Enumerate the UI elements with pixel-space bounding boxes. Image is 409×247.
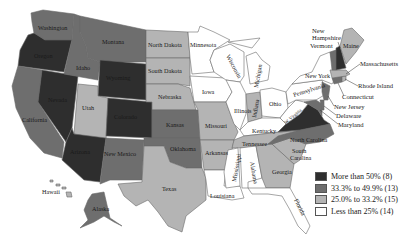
label-delaware: Delaware xyxy=(336,112,361,119)
label-tennessee: Tennessee xyxy=(242,140,268,147)
label-maryland: Maryland xyxy=(338,121,364,128)
label-oklahoma: Oklahoma xyxy=(170,145,196,152)
label-missouri: Missouri xyxy=(205,122,227,129)
label-hawaii: Hawaii xyxy=(42,188,60,195)
legend-label: More than 50% (8) xyxy=(331,172,392,181)
label-louisiana: Louisiana xyxy=(210,192,235,199)
label-new-hampshire-line2: Hampshire xyxy=(312,34,341,41)
label-utah: Utah xyxy=(82,104,95,111)
legend-item-33-to-49: 33.3% to 49.9% (13) xyxy=(315,183,409,194)
legend-item-more-than-50: More than 50% (8) xyxy=(315,171,409,182)
label-vermont: Vermont xyxy=(310,42,333,49)
legend-label: 25.0% to 33.2% (15) xyxy=(331,195,398,204)
legend-swatch xyxy=(315,195,327,204)
label-massachusetts: Massachusetts xyxy=(360,60,399,67)
label-south-dakota: South Dakota xyxy=(148,67,182,74)
label-montana: Montana xyxy=(102,38,124,45)
label-ohio: Ohio xyxy=(269,100,281,107)
legend-label: Less than 25% (14) xyxy=(331,207,393,216)
state-new-york xyxy=(292,52,336,84)
leader-line-rhode-island xyxy=(345,79,358,86)
label-georgia: Georgia xyxy=(272,168,292,175)
label-kentucky: Kentucky xyxy=(252,127,277,134)
label-colorado: Colorado xyxy=(114,113,137,120)
label-new-hampshire-line1: New xyxy=(312,27,325,34)
label-connecticut: Connecticut xyxy=(342,93,374,100)
label-new-york: New York xyxy=(305,72,331,79)
label-north-dakota: North Dakota xyxy=(148,41,182,48)
leader-line-connecticut xyxy=(338,83,344,96)
legend-item-less-than-25: Less than 25% (14) xyxy=(315,206,409,217)
label-south-carolina-line2: Carolina xyxy=(290,154,312,161)
label-california: California xyxy=(22,116,47,123)
label-new-mexico: New Mexico xyxy=(104,150,136,157)
label-wyoming: Wyoming xyxy=(106,74,130,81)
label-iowa: Iowa xyxy=(202,88,215,95)
label-oregon: Oregon xyxy=(34,52,53,59)
label-north-carolina: North Carolina xyxy=(290,136,328,143)
leader-line-massachusetts xyxy=(346,64,360,74)
legend-label: 33.3% to 49.9% (13) xyxy=(331,184,398,193)
label-texas: Texas xyxy=(162,185,177,192)
label-illinois: Illinois xyxy=(234,107,252,114)
label-south-carolina-line1: South xyxy=(292,147,307,154)
label-arkansas: Arkansas xyxy=(205,149,229,156)
state-new-mexico xyxy=(100,138,144,184)
label-new-jersey: New Jersey xyxy=(334,103,365,110)
legend-item-25-to-33: 25.0% to 33.2% (15) xyxy=(315,194,409,205)
label-nebraska: Nebraska xyxy=(158,93,182,100)
leader-line-new-jersey xyxy=(328,96,334,106)
label-washington: Washington xyxy=(38,24,67,31)
label-minnesota: Minnesota xyxy=(190,41,216,48)
label-arizona: Arizona xyxy=(70,148,90,155)
label-rhode-island: Rhode Island xyxy=(358,82,394,89)
legend-swatch xyxy=(315,172,327,181)
legend-swatch xyxy=(315,207,327,216)
label-alaska: Alaska xyxy=(92,205,109,212)
legend: More than 50% (8) 33.3% to 49.9% (13) 25… xyxy=(315,171,409,217)
label-nevada: Nevada xyxy=(48,96,67,103)
label-kansas: Kansas xyxy=(166,121,184,128)
label-maine: Maine xyxy=(343,42,359,49)
label-idaho: Idaho xyxy=(76,64,90,71)
state-massachusetts xyxy=(330,70,350,78)
legend-swatch xyxy=(315,184,327,193)
